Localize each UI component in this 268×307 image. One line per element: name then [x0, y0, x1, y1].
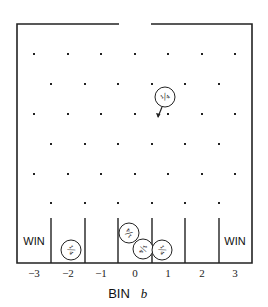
- axis-label-text: BIN: [108, 286, 130, 301]
- peg: [201, 113, 203, 115]
- peg: [117, 202, 119, 204]
- peg: [67, 53, 69, 55]
- peg: [84, 143, 86, 145]
- peg: [151, 143, 153, 145]
- peg: [33, 173, 35, 175]
- peg: [134, 173, 136, 175]
- peg: [184, 143, 186, 145]
- peg: [184, 83, 186, 85]
- bin-tick: 2: [199, 267, 205, 279]
- peg: [184, 202, 186, 204]
- galton-board: WINWIN ¼¼¼¼¼ −3−2−10123 BIN b: [0, 0, 268, 307]
- peg: [67, 113, 69, 115]
- peg: [100, 173, 102, 175]
- win-label: WIN: [23, 235, 44, 247]
- peg: [117, 143, 119, 145]
- coin-bin-0-upper: ¼: [119, 223, 139, 243]
- bin-tick: −2: [62, 267, 74, 279]
- bin-tick: 1: [165, 267, 171, 279]
- coin-bin-0-lower: ¼: [133, 239, 153, 259]
- peg: [167, 53, 169, 55]
- peg: [67, 173, 69, 175]
- peg-grid: [33, 53, 236, 204]
- peg: [134, 113, 136, 115]
- peg: [151, 202, 153, 204]
- bin-tick: −1: [95, 267, 107, 279]
- peg: [84, 202, 86, 204]
- peg: [234, 53, 236, 55]
- peg: [33, 53, 35, 55]
- bin-tick: 3: [232, 267, 238, 279]
- peg: [50, 83, 52, 85]
- peg: [100, 53, 102, 55]
- bin-tick: −3: [28, 267, 40, 279]
- falling-coin: ¼: [155, 87, 175, 107]
- peg: [201, 53, 203, 55]
- bin-tick-labels: −3−2−10123: [28, 267, 238, 279]
- peg: [234, 113, 236, 115]
- motion-arrow: [156, 107, 162, 118]
- bin-tick: 0: [132, 267, 138, 279]
- coin-bin-minus-2: ¼: [61, 240, 81, 260]
- peg: [234, 173, 236, 175]
- peg: [50, 202, 52, 204]
- peg: [33, 113, 35, 115]
- peg: [167, 173, 169, 175]
- peg: [50, 143, 52, 145]
- coin-bin-1: ¼: [152, 240, 172, 260]
- win-label: WIN: [224, 235, 245, 247]
- axis-variable: b: [141, 286, 148, 301]
- peg: [218, 83, 220, 85]
- peg: [201, 173, 203, 175]
- peg: [218, 202, 220, 204]
- peg: [134, 53, 136, 55]
- peg: [151, 83, 153, 85]
- peg: [167, 113, 169, 115]
- peg: [100, 113, 102, 115]
- peg: [117, 83, 119, 85]
- axis-label: BIN b: [108, 286, 148, 301]
- peg: [218, 143, 220, 145]
- peg: [84, 83, 86, 85]
